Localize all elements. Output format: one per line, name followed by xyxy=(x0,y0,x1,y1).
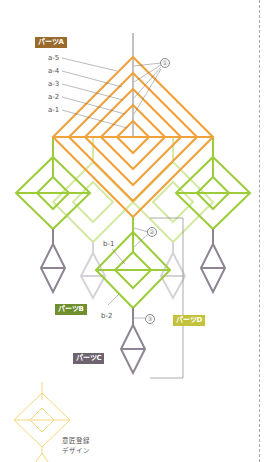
caption-line-1: 意匠登録 xyxy=(62,436,90,446)
part-b-left xyxy=(16,137,90,229)
strand-a3-label: a-3 xyxy=(48,80,59,88)
part-a-label: パーツA xyxy=(35,37,67,48)
strand-a1-label: a-1 xyxy=(48,106,59,114)
strand-a2-label: a-2 xyxy=(48,93,59,101)
mobile-assembly-diagram xyxy=(0,0,270,462)
part-b-center xyxy=(96,217,170,308)
marker-1: ① xyxy=(160,58,170,68)
part-c-left xyxy=(41,229,65,292)
page-edge-dashed-line xyxy=(259,0,260,462)
strand-b2-label: b-2 xyxy=(101,312,112,320)
strand-a5-label: a-5 xyxy=(48,54,59,62)
part-d-bracket xyxy=(150,218,183,378)
b1-leader xyxy=(112,249,125,264)
part-c-label: パーツC xyxy=(73,353,104,364)
design-registration-caption: 意匠登録 デザイン xyxy=(62,436,90,456)
marker-3: ③ xyxy=(145,314,155,324)
part-b-right xyxy=(176,137,250,229)
part-c-right xyxy=(201,229,225,292)
strand-b1-label: b-1 xyxy=(103,240,114,248)
part-d-label: パーツD xyxy=(173,315,205,326)
caption-line-2: デザイン xyxy=(62,446,90,456)
marker-2: ② xyxy=(147,227,157,237)
strand-a4-label: a-4 xyxy=(48,67,59,75)
part-b-label: パーツB xyxy=(55,304,87,315)
b2-leader xyxy=(108,294,119,305)
